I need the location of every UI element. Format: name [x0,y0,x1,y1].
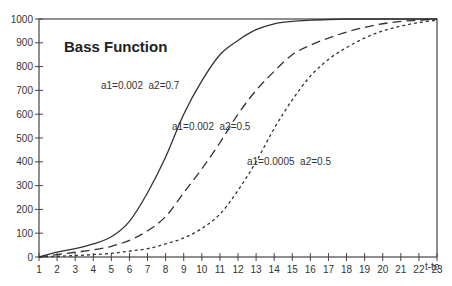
y-axis: 01002003004005006007008009001000 [11,14,43,263]
y-tick-label: 900 [16,37,33,48]
x-tick-label: 13 [251,264,263,275]
series-line-3 [39,20,437,257]
x-axis: 1234567891011121314151617181920212223 [36,253,443,275]
y-tick-label: 500 [16,133,33,144]
x-tick-label: 22 [413,264,425,275]
series-label-3: a1=0.0005 a2=0.5 [247,156,331,167]
x-tick-label: 16 [305,264,317,275]
series-label-2: a1=0.002 a2=0.5 [172,121,251,132]
y-tick-label: 200 [16,204,33,215]
x-tick-label: 8 [163,264,169,275]
series-label-1: a1=0.002 a2=0.7 [101,80,180,91]
x-tick-label: 10 [196,264,208,275]
x-tick-label: 6 [127,264,133,275]
x-tick-label: 18 [341,264,353,275]
x-tick-label: 3 [72,264,78,275]
y-tick-label: 100 [16,228,33,239]
x-tick-label: 21 [395,264,407,275]
x-tick-label: 9 [181,264,187,275]
x-tick-label: 20 [377,264,389,275]
y-tick-label: 0 [27,252,33,263]
x-tick-label: 5 [109,264,115,275]
chart-title: Bass Function [64,38,167,55]
x-tick-label: 17 [323,264,335,275]
x-tick-label: 7 [145,264,151,275]
y-tick-label: 1000 [11,14,34,25]
y-tick-label: 300 [16,180,33,191]
x-tick-label: 19 [359,264,371,275]
x-tick-label: 14 [269,264,281,275]
x-tick-label: 1 [36,264,42,275]
x-tick-label: 12 [232,264,244,275]
bass-function-chart: 01002003004005006007008009001000 1234567… [0,0,452,286]
x-tick-label: 11 [215,264,226,275]
y-tick-label: 600 [16,109,33,120]
x-tick-label: 4 [90,264,96,275]
y-tick-label: 800 [16,61,33,72]
y-tick-label: 400 [16,156,33,167]
y-tick-label: 700 [16,85,33,96]
x-tick-label: 2 [54,264,60,275]
x-tick-label: 15 [287,264,299,275]
x-axis-label: t-to [425,261,440,272]
